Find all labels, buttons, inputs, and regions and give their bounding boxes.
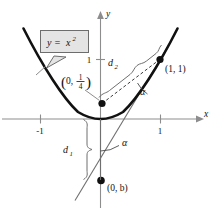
focus-label-leader: [85, 90, 100, 101]
y-axis-label: y: [105, 9, 111, 19]
callout-leader-line: [36, 66, 46, 75]
callout-equation-exponent: 2: [73, 35, 77, 42]
y-tick-label-one: 1: [87, 55, 92, 65]
focus-point-label: ( 0, 1 4 ): [61, 73, 91, 92]
figure-canvas: x y -1 1 1 y = x 2 ( 0, 1 4: [0, 0, 217, 215]
callout-pointer: [47, 56, 67, 68]
d1-base: d: [63, 144, 69, 155]
d2-brace: [99, 45, 162, 98]
d2-subscript: 2: [115, 63, 119, 70]
callout-equation-lhs: y: [46, 37, 52, 48]
x-tick-label-one: 1: [158, 126, 163, 136]
focus-point-dot: [98, 100, 105, 107]
callout-equation-base: x: [65, 37, 71, 48]
d1-label: d 1: [63, 144, 73, 157]
alpha-upper-label: α: [140, 86, 146, 97]
focus-fraction-denominator: 4: [79, 82, 83, 91]
curve-point-dot: [156, 56, 163, 63]
x-tick-label-minus-one: -1: [36, 126, 44, 136]
curve-point-label: (1, 1): [165, 64, 186, 75]
x-axis-label: x: [203, 109, 209, 119]
d2-base: d: [108, 57, 114, 68]
callout-equation-equals: =: [54, 37, 61, 48]
d2-label: d 2: [108, 57, 119, 70]
d1-subscript: 1: [70, 150, 73, 157]
equation-callout: y = x 2: [41, 31, 89, 69]
d1-brace: [84, 120, 93, 180]
y-axis-arrowhead: [97, 11, 104, 19]
y-intercept-label: (0, b): [107, 183, 128, 194]
focus-fraction-numerator: 1: [79, 73, 83, 82]
x-axis-arrowhead: [196, 116, 204, 123]
math-figure-parabola: x y -1 1 1 y = x 2 ( 0, 1 4: [0, 0, 217, 215]
d1-brace-group: [84, 120, 93, 180]
alpha-lower-label: α: [122, 137, 128, 148]
d2-brace-group: [99, 45, 162, 98]
focus-label-close-paren: ): [86, 74, 91, 91]
focus-label-prefix: 0,: [66, 76, 73, 86]
alpha-lower-arc: [101, 146, 120, 152]
